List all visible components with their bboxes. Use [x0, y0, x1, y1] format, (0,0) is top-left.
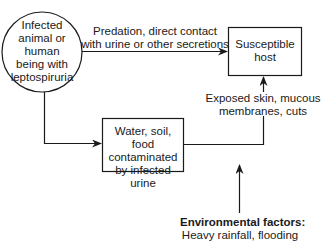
host-line: host: [228, 51, 302, 64]
source-node-label: Infected animal or human being with lept…: [2, 19, 82, 84]
source-line: animal or: [2, 32, 82, 45]
environment-line: Water, soil, food: [102, 125, 184, 151]
direct-line: Predation, direct contact: [80, 25, 230, 38]
environment-to-host-arrow: [184, 116, 264, 145]
source-line: human: [2, 45, 82, 58]
environment-line: contaminated: [102, 151, 184, 164]
environmental-factors: Environmental factors: Heavy rainfall, f…: [180, 216, 300, 242]
environment-line: by infected urine: [102, 164, 184, 190]
factors-title: Environmental factors:: [180, 216, 300, 229]
indirect-line: Exposed skin, mucous: [203, 92, 323, 105]
source-line: leptospiruria: [2, 71, 82, 84]
host-node-label: Susceptible host: [228, 38, 302, 64]
source-to-environment-arrow: [45, 92, 102, 144]
host-line: Susceptible: [228, 38, 302, 51]
factors-detail: Heavy rainfall, flooding: [180, 229, 300, 242]
direct-edge-label: Predation, direct contact with urine or …: [80, 25, 230, 51]
indirect-line: membranes, cuts: [203, 105, 323, 118]
direct-line: with urine or other secretions: [80, 38, 230, 51]
environment-node-label: Water, soil, food contaminated by infect…: [102, 125, 184, 190]
source-line: Infected: [2, 19, 82, 32]
indirect-edge-label: Exposed skin, mucous membranes, cuts: [203, 92, 323, 118]
source-line: being with: [2, 58, 82, 71]
